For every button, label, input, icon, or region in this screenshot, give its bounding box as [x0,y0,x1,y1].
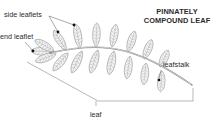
diagram-title-line1: PINNATELY [156,7,198,16]
diagram-title-line2: COMPOUND LEAF [144,16,211,25]
side-leaflets-label: side leaflets [4,10,42,19]
side-leaflets-pointer [49,16,75,33]
side-leaflet-marker-1 [73,24,76,27]
pinnately-compound-leaf-diagram: side leaflets end leaflet leafstalk leaf… [0,0,222,122]
leaf-label: leaf [90,110,102,119]
end-leaflet-pointer [25,42,34,52]
side-leaflet-marker-2 [57,31,60,34]
end-leaflet-label: end leaflet [0,32,33,41]
upper-side-leaflets [33,23,171,69]
end-leaflet-marker [32,50,35,53]
leafstalk-label: leafstalk [163,60,190,69]
leafstalk-marker [158,79,161,82]
leaflets [31,23,172,92]
